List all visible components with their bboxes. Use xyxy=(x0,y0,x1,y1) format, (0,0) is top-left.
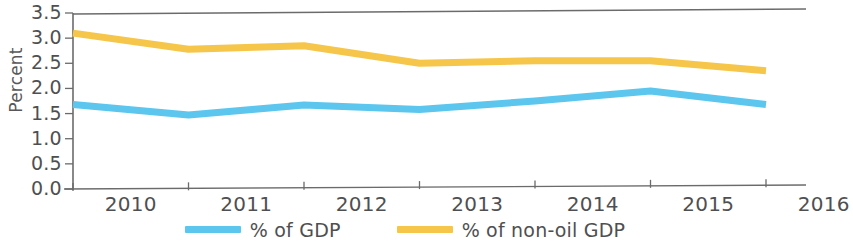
x-tick-label: 2016 xyxy=(769,192,853,216)
x-tick-label: 2011 xyxy=(191,192,301,216)
x-tick-label: 2010 xyxy=(76,192,186,216)
x-tick-label: 2012 xyxy=(307,192,417,216)
legend-entry[interactable]: % of GDP xyxy=(185,219,341,241)
chart-legend: % of GDP% of non-oil GDP xyxy=(0,218,810,241)
x-tick-label: 2015 xyxy=(653,192,763,216)
legend-label: % of non-oil GDP xyxy=(462,219,626,241)
legend-swatch xyxy=(397,226,453,233)
legend-swatch xyxy=(185,226,241,233)
legend-label: % of GDP xyxy=(250,219,341,241)
x-tick-label: 2014 xyxy=(538,192,648,216)
legend-entry[interactable]: % of non-oil GDP xyxy=(397,219,626,241)
x-tick-label: 2013 xyxy=(422,192,532,216)
